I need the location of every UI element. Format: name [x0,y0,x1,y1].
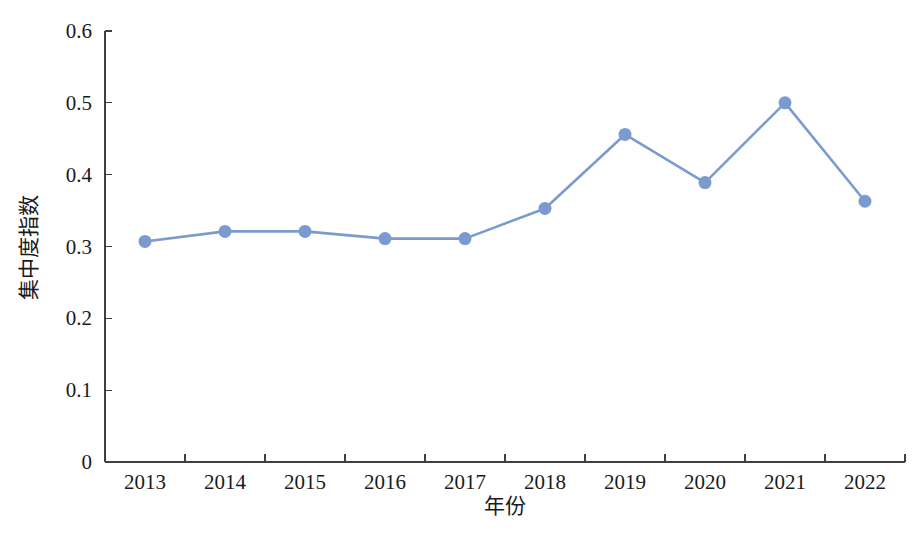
x-tick-label: 2022 [844,470,886,494]
x-tick-label: 2020 [684,470,726,494]
data-point-marker [539,202,552,215]
data-point-marker [699,176,712,189]
x-tick-label: 2021 [764,470,806,494]
data-point-marker [859,195,872,208]
data-point-marker [139,235,152,248]
x-tick-label: 2013 [124,470,166,494]
y-tick-label: 0.1 [66,378,92,402]
data-point-marker [299,225,312,238]
x-tick-label: 2019 [604,470,646,494]
y-axis-tick-labels: 00.10.20.30.40.50.6 [66,19,93,474]
y-tick-label: 0 [82,450,93,474]
x-axis-title: 年份 [484,494,526,518]
cropped-text-strip-bottom [0,535,912,549]
line-chart: 00.10.20.30.40.50.6 集中度指数 20132014201520… [0,0,912,549]
data-point-marker [779,96,792,109]
x-tick-label: 2015 [284,470,326,494]
x-tick-label: 2014 [204,470,247,494]
x-axis: 2013201420152016201720182019202020212022… [105,454,905,518]
data-point-marker [379,232,392,245]
plot-area-background [105,31,905,462]
y-tick-label: 0.6 [66,19,92,43]
x-tick-label: 2017 [444,470,486,494]
y-axis-title: 集中度指数 [17,195,41,300]
y-axis: 00.10.20.30.40.50.6 集中度指数 [17,19,112,474]
x-axis-tick-labels: 2013201420152016201720182019202020212022 [124,470,886,494]
chart-figure: 00.10.20.30.40.50.6 集中度指数 20132014201520… [0,0,912,549]
y-tick-label: 0.4 [66,163,93,187]
y-tick-label: 0.3 [66,235,92,259]
data-point-marker [619,128,632,141]
y-tick-label: 0.5 [66,91,92,115]
data-point-marker [219,225,232,238]
x-tick-label: 2018 [524,470,566,494]
x-tick-label: 2016 [364,470,406,494]
y-tick-label: 0.2 [66,306,92,330]
data-point-marker [459,232,472,245]
